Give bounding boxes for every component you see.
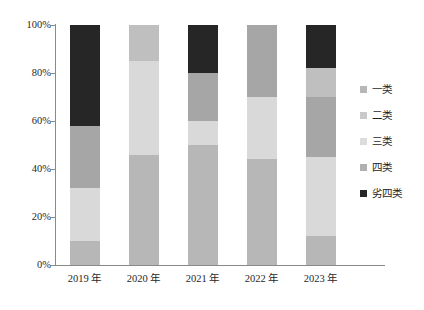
bar-segment[interactable] <box>247 159 277 265</box>
y-axis-tick-mark <box>51 217 55 218</box>
legend-item-label: 二类 <box>372 110 392 121</box>
y-axis-tick-label: 80% <box>3 68 51 78</box>
legend-item-label: 四类 <box>372 162 392 173</box>
bar-group[interactable] <box>247 25 277 265</box>
y-axis-tick-mark <box>51 169 55 170</box>
bar-group[interactable] <box>70 25 100 265</box>
chart-legend: 一类二类三类四类劣四类 <box>360 76 422 206</box>
bar-segment[interactable] <box>70 25 100 126</box>
y-axis-tick-mark <box>51 265 55 266</box>
bar-stack <box>247 25 277 265</box>
bar-segment[interactable] <box>188 121 218 145</box>
legend-item[interactable]: 劣四类 <box>360 180 422 206</box>
bar-group[interactable] <box>188 25 218 265</box>
bar-segment[interactable] <box>306 236 336 265</box>
y-axis-tick-mark <box>51 25 55 26</box>
bar-group[interactable] <box>306 25 336 265</box>
bar-segment[interactable] <box>247 97 277 159</box>
bar-segment[interactable] <box>247 25 277 97</box>
y-axis-tick-label: 20% <box>3 212 51 222</box>
legend-item-label: 劣四类 <box>372 188 402 199</box>
bar-segment[interactable] <box>129 61 159 155</box>
legend-swatch-icon <box>360 112 367 119</box>
legend-item[interactable]: 一类 <box>360 76 422 102</box>
bar-segment[interactable] <box>188 25 218 73</box>
plot-area <box>55 25 350 265</box>
bar-segment[interactable] <box>306 97 336 157</box>
bar-segment[interactable] <box>306 157 336 236</box>
bar-group[interactable] <box>129 25 159 265</box>
bar-segment[interactable] <box>70 241 100 265</box>
y-axis-tick-label: 60% <box>3 116 51 126</box>
bar-segment[interactable] <box>188 73 218 121</box>
legend-swatch-icon <box>360 86 367 93</box>
bar-stack <box>70 25 100 265</box>
bar-segment[interactable] <box>188 145 218 265</box>
bar-stack <box>188 25 218 265</box>
bar-segment[interactable] <box>306 25 336 68</box>
bar-segment[interactable] <box>129 25 159 61</box>
legend-item[interactable]: 四类 <box>360 154 422 180</box>
bar-segment[interactable] <box>70 188 100 241</box>
legend-swatch-icon <box>360 164 367 171</box>
bar-segment[interactable] <box>70 126 100 188</box>
bar-segment[interactable] <box>129 155 159 265</box>
bar-segment[interactable] <box>306 68 336 97</box>
y-axis-tick-mark <box>51 121 55 122</box>
stacked-bar-chart: 0%20%40%60%80%100% 2019 年2020 年2021 年202… <box>0 0 424 310</box>
legend-swatch-icon <box>360 138 367 145</box>
legend-item-label: 一类 <box>372 84 392 95</box>
y-axis-tick-label: 40% <box>3 164 51 174</box>
y-axis-tick-label: 100% <box>3 20 51 30</box>
x-axis-line <box>55 265 385 266</box>
legend-swatch-icon <box>360 190 367 197</box>
y-axis-tick-label: 0% <box>3 260 51 270</box>
x-axis-tick-label: 2023 年 <box>283 272 359 285</box>
legend-item-label: 三类 <box>372 136 392 147</box>
y-axis-tick-group: 0%20%40%60%80%100% <box>0 0 51 310</box>
legend-item[interactable]: 三类 <box>360 128 422 154</box>
bar-stack <box>129 25 159 265</box>
y-axis-tick-mark <box>51 73 55 74</box>
bar-stack <box>306 25 336 265</box>
legend-item[interactable]: 二类 <box>360 102 422 128</box>
